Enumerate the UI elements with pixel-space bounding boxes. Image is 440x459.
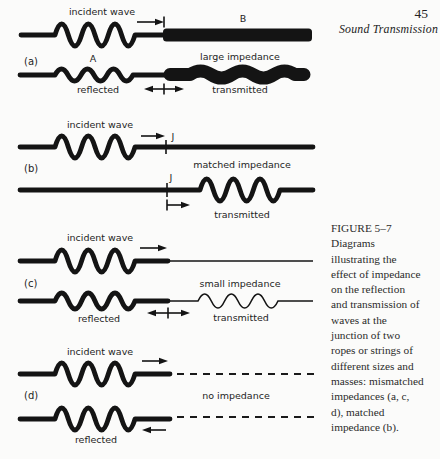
label-incident-wave-c: incident wave — [67, 232, 133, 243]
tag-d: (d) — [24, 390, 38, 401]
arrow-right-from-junction-icon — [167, 200, 190, 211]
arrow-head — [155, 19, 164, 25]
rope-thin-transmitted-wave-c — [167, 294, 313, 308]
rope-b-transmitted-ripple-bar — [170, 71, 304, 78]
tag-b: (b) — [24, 163, 38, 174]
figure-caption-title: FIGURE 5–7 — [331, 221, 424, 236]
arrow-head-right — [181, 310, 190, 316]
label-reflected-a: reflected — [77, 84, 119, 95]
arrow-head-left — [147, 310, 156, 316]
arrow-right-icon — [141, 133, 165, 139]
rope-b-thick-bar — [163, 29, 312, 42]
label-incident-wave-b: incident wave — [67, 119, 133, 130]
rope-reflected-wave-d — [20, 408, 170, 430]
label-no-impedance: no impedance — [202, 390, 270, 401]
arrow-right-to-junction-icon — [137, 17, 164, 28]
label-incident-wave-d: incident wave — [67, 346, 133, 357]
label-reflected-d: reflected — [75, 434, 117, 445]
figure-caption: FIGURE 5–7 Diagrams illustrating the eff… — [331, 221, 424, 435]
label-matched-impedance: matched impedance — [193, 159, 291, 170]
arrow-left-icon — [142, 427, 166, 433]
rope-thick-incident-wave-c — [20, 250, 168, 272]
section-c: incident wave (c) small impedance reflec… — [20, 232, 313, 324]
double-arrow-at-junction-icon — [147, 308, 190, 319]
figure-caption-body: Diagrams illustrating the effect of impe… — [331, 236, 424, 435]
arrow-right-icon — [142, 358, 168, 364]
label-large-impedance: large impedance — [200, 51, 280, 62]
tag-c: (c) — [24, 278, 37, 289]
label-rope-b: B — [240, 13, 247, 24]
section-d: incident wave (d) no impedance reflected — [20, 346, 316, 445]
arrow-head — [158, 245, 167, 251]
label-transmitted-b: transmitted — [214, 209, 270, 220]
tag-a: (a) — [24, 56, 38, 67]
arrow-head — [159, 358, 168, 364]
book-page: 45 Sound Transmission incident wave B (a… — [0, 0, 440, 459]
label-rope-a: A — [90, 53, 97, 64]
rope-thick-reflected-wave-c — [20, 293, 168, 309]
rope-a-reflected-wave — [20, 69, 165, 81]
arrow-head — [142, 427, 151, 433]
section-a: incident wave B (a) A large impedance re… — [20, 6, 312, 95]
label-reflected-c: reflected — [78, 313, 120, 324]
double-arrow-at-junction-icon — [144, 84, 184, 95]
label-junction-j-bottom: J — [169, 172, 173, 183]
rope-a-incident-wave — [21, 24, 164, 46]
arrow-right-icon — [140, 245, 167, 251]
label-small-impedance: small impedance — [199, 278, 280, 289]
arrow-head-left — [144, 86, 153, 92]
label-transmitted-c: transmitted — [213, 312, 269, 323]
label-junction-j-top: J — [171, 131, 175, 142]
section-b: incident wave J (b) matched impedance J … — [20, 119, 313, 220]
arrow-head — [181, 202, 190, 208]
rope-incident-wave-d — [20, 363, 170, 385]
arrow-head — [156, 133, 165, 139]
arrow-head-right — [175, 86, 184, 92]
label-incident-wave-a: incident wave — [69, 6, 135, 17]
label-transmitted-a: transmitted — [212, 84, 268, 95]
